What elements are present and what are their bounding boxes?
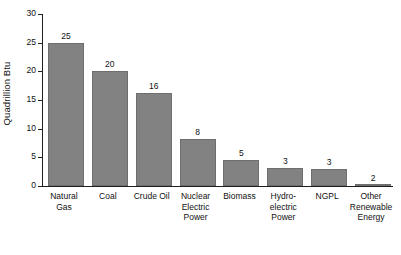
y-axis-tick-label: 15	[27, 94, 36, 105]
y-axis-line	[42, 14, 43, 187]
x-axis-label-line: Power	[171, 212, 221, 223]
y-axis-tick-label: 25	[27, 37, 36, 48]
bar-item[interactable]: 3	[311, 13, 347, 186]
bar-value-label: 16	[149, 81, 158, 91]
y-axis-tick-label: 0	[31, 180, 36, 191]
bar-value-label: 8	[195, 127, 200, 137]
bar-item[interactable]: 2	[355, 13, 391, 186]
bar-item[interactable]: 8	[180, 13, 216, 186]
y-axis-tick-mark	[38, 14, 42, 15]
bar-value-label: 3	[283, 156, 288, 166]
bar-value-label: 25	[61, 31, 70, 41]
x-axis-label-line: Natural	[39, 191, 89, 202]
bar-rect[interactable]	[180, 139, 216, 186]
y-axis-tick-mark	[38, 43, 42, 44]
y-axis-tick-label: 5	[31, 151, 36, 162]
bar-rect[interactable]	[92, 71, 128, 186]
x-axis-label-line: Other	[346, 191, 396, 202]
x-axis-label: NGPL	[302, 191, 352, 202]
x-axis-label-line: Gas	[39, 202, 89, 213]
bar-value-label: 2	[371, 173, 376, 183]
y-axis-tick-mark	[38, 71, 42, 72]
y-axis-title: Quadrillion Btu	[0, 0, 14, 187]
x-axis-label: Coal	[83, 191, 133, 202]
x-axis-label: NuclearElectricPower	[171, 191, 221, 223]
x-axis-label-line: Coal	[83, 191, 133, 202]
y-axis-tick-mark	[38, 129, 42, 130]
x-axis-label-line: Energy	[346, 212, 396, 223]
bar-item[interactable]: 3	[267, 13, 303, 186]
x-axis-label-line: electric	[258, 202, 308, 213]
bar-rect[interactable]	[223, 160, 259, 186]
x-axis-label-line: Electric	[171, 202, 221, 213]
bar-value-label: 3	[327, 157, 332, 167]
x-axis-label-line: Hydro-	[258, 191, 308, 202]
bar-value-label: 20	[105, 59, 114, 69]
y-axis-tick-label: 30	[27, 8, 36, 19]
y-axis-tick-mark	[38, 157, 42, 158]
x-axis-label: OtherRenewableEnergy	[346, 191, 396, 223]
x-axis-line	[42, 186, 393, 187]
bar-value-label: 5	[239, 148, 244, 158]
bar-item[interactable]: 25	[48, 13, 84, 186]
x-axis-label: Hydro-electricPower	[258, 191, 308, 223]
bar-rect[interactable]	[48, 43, 84, 186]
plot-area: 051015202530 25201685332	[42, 14, 393, 187]
x-axis-label-line: Renewable	[346, 202, 396, 213]
x-axis-label-line: Biomass	[215, 191, 265, 202]
bar-item[interactable]: 5	[223, 13, 259, 186]
bar-rect[interactable]	[311, 169, 347, 186]
x-axis-label: NaturalGas	[39, 191, 89, 212]
bar-item[interactable]: 20	[92, 13, 128, 186]
x-axis-label-line: Power	[258, 212, 308, 223]
x-axis-label: Biomass	[215, 191, 265, 202]
bar-item[interactable]: 16	[136, 13, 172, 186]
y-axis-tick-label: 20	[27, 65, 36, 76]
y-axis-tick-mark	[38, 186, 42, 187]
bar-rect[interactable]	[355, 184, 391, 186]
y-axis-title-label: Quadrillion Btu	[2, 62, 13, 126]
x-axis-label-line: Nuclear	[171, 191, 221, 202]
bar-rect[interactable]	[267, 168, 303, 186]
bar-chart: Quadrillion Btu 051015202530 25201685332…	[0, 0, 401, 255]
x-axis-label-line: NGPL	[302, 191, 352, 202]
x-axis-label: Crude Oil	[127, 191, 177, 202]
x-axis-label-line: Crude Oil	[127, 191, 177, 202]
bar-rect[interactable]	[136, 93, 172, 186]
y-axis-tick-label: 10	[27, 123, 36, 134]
y-axis-tick-mark	[38, 100, 42, 101]
